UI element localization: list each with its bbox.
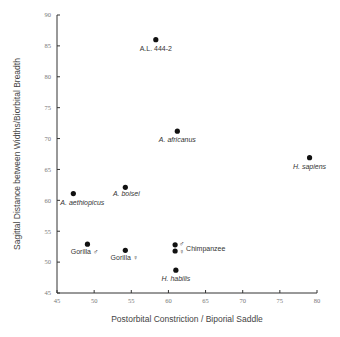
point-label: H. sapiens (293, 163, 327, 171)
point-marker (153, 37, 158, 42)
x-tick-label: 50 (91, 297, 98, 304)
axes: 455055606570758045505560657075808590 (45, 11, 321, 304)
x-tick-label: 45 (54, 297, 61, 304)
x-tick-label: 65 (202, 297, 209, 304)
y-tick-label: 60 (45, 197, 52, 204)
point-label: Gorilla ♂ (71, 248, 98, 255)
data-point: H. habilis (161, 268, 190, 283)
point-label: ♀ (179, 248, 184, 255)
y-tick-label: 55 (45, 228, 52, 235)
data-point: Gorilla ♀ (111, 248, 138, 262)
data-point: ♂ (173, 240, 185, 248)
x-tick-label: 55 (128, 297, 135, 304)
annotation-label: Chimpanzee (186, 245, 225, 253)
point-label: ♂ (179, 240, 184, 247)
point-marker (85, 242, 90, 247)
data-point: A. aethiopicus (59, 191, 104, 207)
point-marker (173, 248, 178, 253)
y-tick-label: 80 (45, 73, 52, 80)
data-point: H. sapiens (293, 155, 327, 171)
point-label: A. aethiopicus (59, 199, 104, 207)
data-point: ♀ (173, 248, 185, 255)
point-label: Gorilla ♀ (111, 254, 138, 261)
point-marker (307, 155, 312, 160)
scatter-chart: 455055606570758045505560657075808590 A.L… (0, 0, 340, 337)
point-label: A.L. 444-2 (140, 45, 172, 52)
x-axis-title: Postorbital Constriction / Biporial Sadd… (111, 314, 263, 324)
y-axis-title: Sagittal Distance between Widths/Biorbit… (12, 58, 22, 250)
point-label: A. africanus (158, 136, 196, 143)
x-tick-label: 80 (314, 297, 321, 304)
point-label: H. habilis (161, 275, 190, 282)
y-tick-label: 50 (45, 258, 52, 265)
data-point: Gorilla ♂ (71, 242, 98, 256)
data-points: A.L. 444-2A. africanusH. sapiensA. aethi… (59, 37, 326, 282)
point-marker (123, 248, 128, 253)
x-tick-label: 75 (277, 297, 284, 304)
y-tick-label: 70 (45, 135, 52, 142)
x-tick-label: 60 (165, 297, 172, 304)
point-marker (173, 268, 178, 273)
point-marker (123, 185, 128, 190)
data-point: A. africanus (158, 129, 196, 144)
y-tick-label: 85 (45, 42, 52, 49)
point-marker (173, 242, 178, 247)
y-tick-label: 65 (45, 166, 52, 173)
point-label: A. boisei (112, 190, 140, 197)
x-tick-label: 70 (239, 297, 246, 304)
point-marker (71, 191, 76, 196)
y-tick-label: 90 (45, 11, 52, 18)
y-tick-label: 75 (45, 104, 52, 111)
y-tick-label: 45 (45, 289, 52, 296)
data-point: A. boisei (112, 185, 140, 198)
point-marker (175, 129, 180, 134)
data-point: A.L. 444-2 (140, 37, 172, 52)
